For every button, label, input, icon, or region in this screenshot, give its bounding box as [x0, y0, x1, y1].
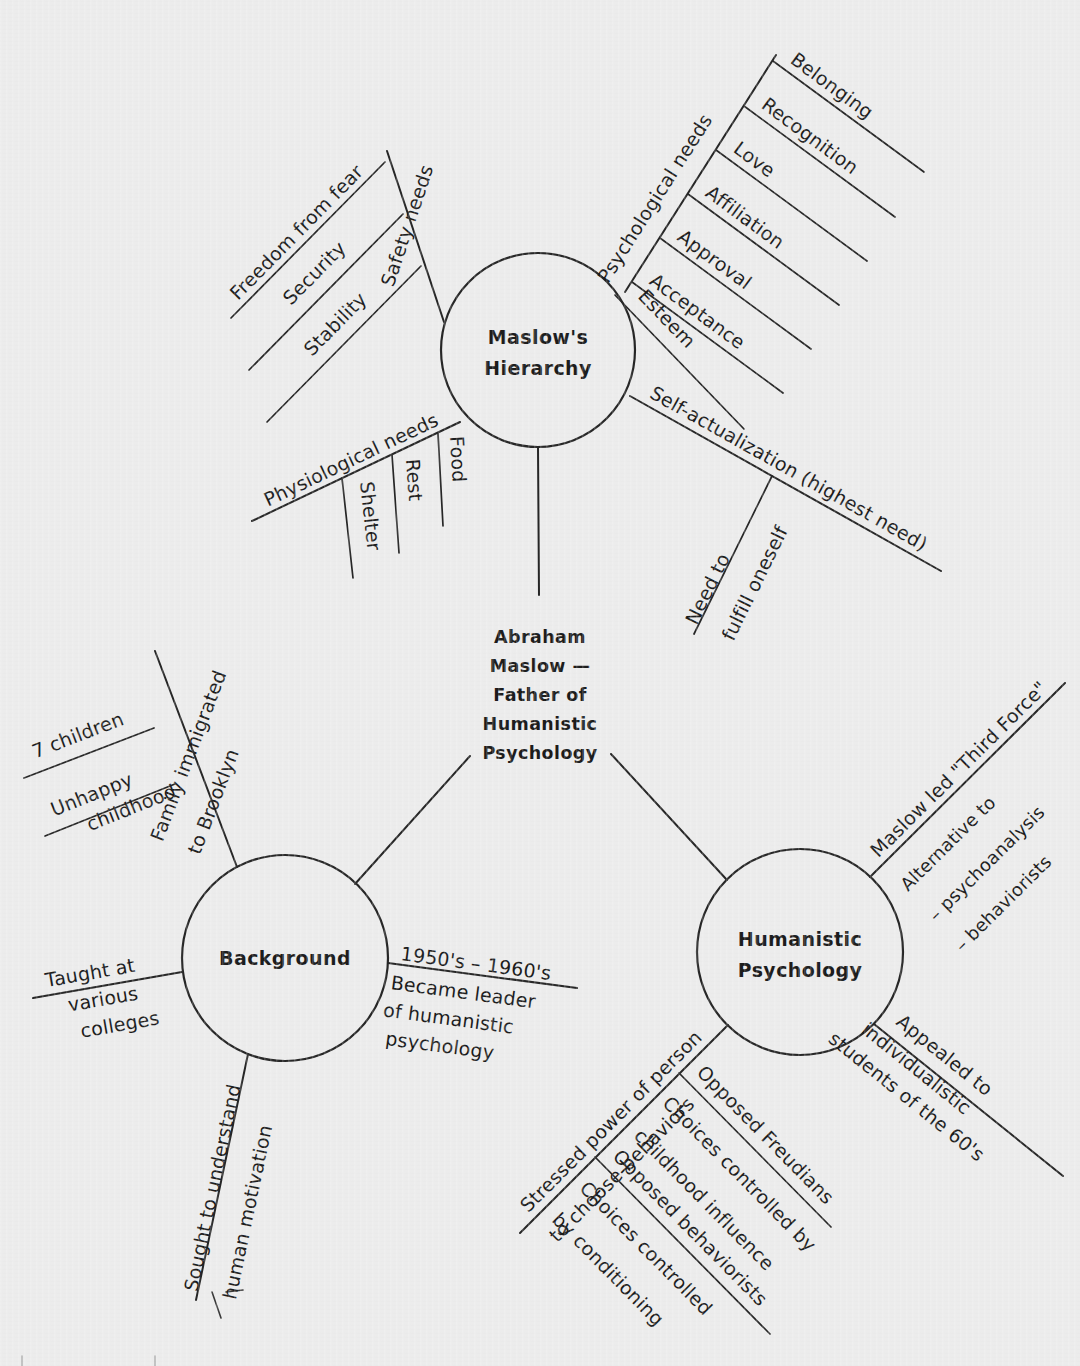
node-background-label-group: Background [219, 947, 351, 969]
node-maslows-hierarchy-line-1: Maslow's [488, 326, 588, 348]
branch-shelter-line [342, 478, 353, 578]
branch-rest-line [392, 455, 399, 553]
label-by-conditioning: by conditioning [548, 1208, 669, 1330]
connector-center-to-humanistic [611, 754, 727, 880]
center-node-line-5: Psychology [482, 743, 597, 763]
node-humanistic-psychology-line-1: Humanistic [738, 928, 862, 950]
node-humanistic-psychology-line-2: Psychology [738, 959, 863, 981]
label-food: Food [446, 435, 471, 483]
mindmap-canvas: Abraham Maslow — Father of Humanistic Ps… [0, 0, 1080, 1366]
label-behaviorists: – behaviorists [950, 851, 1055, 956]
label-love: Love [730, 137, 780, 182]
node-humanistic-psychology-label-group: Humanistic Psychology [738, 928, 863, 981]
label-safety-needs: Safety needs [376, 162, 437, 289]
center-node-line-2: Maslow — [490, 656, 591, 676]
node-maslows-hierarchy-line-2: Hierarchy [484, 357, 592, 379]
connector-center-to-background [355, 756, 470, 884]
label-belonging: Belonging [787, 48, 878, 123]
connector-center-to-hierarchy [538, 447, 539, 595]
page-artifacts [22, 1290, 243, 1366]
branch-food-line [438, 433, 443, 526]
label-self-actualization: Self-actualization (highest need) [646, 381, 931, 555]
label-rest: Rest [402, 458, 427, 502]
node-background-line-1: Background [219, 947, 351, 969]
branch-physiological-needs-line [252, 422, 460, 521]
node-maslows-hierarchy-label-group: Maslow's Hierarchy [484, 326, 592, 379]
branch-third-force [870, 683, 1065, 877]
mindmap-svg: Abraham Maslow — Father of Humanistic Ps… [0, 0, 1080, 1366]
center-node-line-1: Abraham [494, 627, 586, 647]
center-node-line-4: Humanistic [483, 714, 598, 734]
label-affiliation: Affiliation [702, 181, 789, 253]
label-fulfill-oneself: fulfill oneself [717, 521, 792, 643]
branch-third-force-line [870, 683, 1065, 877]
center-node-label-group: Abraham Maslow — Father of Humanistic Ps… [482, 627, 597, 763]
label-shelter: Shelter [356, 480, 385, 551]
label-7-children: 7 children [29, 707, 127, 762]
center-node-line-3: Father of [493, 685, 586, 705]
label-stability: Stability [299, 288, 371, 360]
